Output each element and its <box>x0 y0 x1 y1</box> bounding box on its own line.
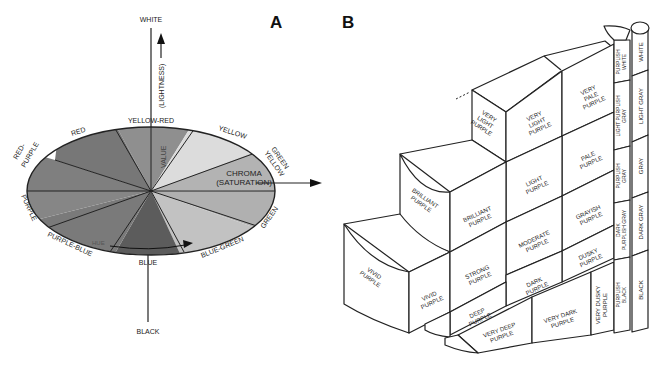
svg-text:BLACK: BLACK <box>621 286 627 303</box>
label-white: WHITE <box>638 42 644 61</box>
lightness-label: (LIGHTNESS) <box>158 64 166 108</box>
figure-canvas: A WHITE BLACK (LIGHTNESS) <box>0 0 657 365</box>
svg-text:PURPLISH GRAY: PURPLISH GRAY <box>621 209 627 250</box>
label-gray: GRAY <box>638 158 644 175</box>
white-label: WHITE <box>140 16 163 23</box>
hue-label-yellow: YELLOW <box>218 124 248 140</box>
svg-text:GRAY: GRAY <box>621 168 627 182</box>
label-black: BLACK <box>638 280 644 300</box>
hue-label-yellow-red: YELLOW-RED <box>128 117 174 124</box>
panel-a-color-solid: A WHITE BLACK (LIGHTNESS) <box>12 13 322 335</box>
panel-b-purple-chart: B <box>342 13 649 353</box>
hue-label: HUE <box>92 240 105 246</box>
hue-label-red: RED <box>70 126 86 137</box>
gray-column-cap <box>631 22 649 34</box>
svg-text:WHITE: WHITE <box>621 53 627 70</box>
value-label: VALUE <box>160 145 167 168</box>
label-light-gray: LIGHT GRAY <box>638 88 644 124</box>
chroma-label: CHROMA <box>226 169 262 178</box>
chroma-arrow-icon <box>310 179 322 187</box>
svg-text:PURPLE: PURPLE <box>602 293 608 317</box>
panel-b-letter: B <box>342 13 354 32</box>
black-label: BLACK <box>137 328 160 335</box>
label-dark-gray: DARK GRAY <box>638 205 644 240</box>
svg-text:VERY DUSKY: VERY DUSKY <box>595 286 601 324</box>
wedge-cap <box>604 26 630 40</box>
lightness-arrow-icon <box>157 33 165 44</box>
hue-label-blue: BLUE <box>139 259 158 266</box>
panel-a-letter: A <box>270 13 282 32</box>
svg-text:GRAY: GRAY <box>621 108 627 122</box>
hue-wheel <box>20 120 290 270</box>
